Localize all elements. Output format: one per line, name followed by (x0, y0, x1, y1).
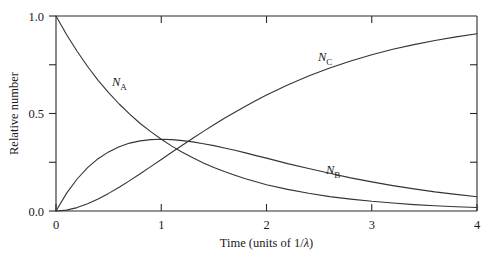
y-tick-label-1: 0.5 (28, 107, 44, 121)
top-spine-ticks (161, 16, 372, 23)
x-tick-label-0: 0 (53, 218, 59, 232)
y-axis-title: Relative number (7, 71, 21, 155)
right-spine-ticks (470, 65, 477, 163)
decay-chain-chart: 0.0 0.5 1.0 0 1 2 3 4 Time (units of 1/λ… (0, 0, 499, 262)
curve-label-nc: NC (317, 50, 332, 67)
x-axis-title-main: Time (units of 1/ (220, 236, 304, 250)
y-tick-label-2: 1.0 (28, 10, 44, 24)
figure-canvas: 0.0 0.5 1.0 0 1 2 3 4 Time (units of 1/λ… (0, 0, 499, 262)
y-tick-label-0: 0.0 (28, 205, 44, 219)
x-axis-title-close: ) (309, 236, 313, 250)
curve-label-na: NA (111, 75, 127, 92)
curve-label-nb: NB (325, 163, 340, 180)
curves (56, 16, 477, 211)
curve-label-nc-sub: C (326, 57, 332, 67)
curve-label-nb-sub: B (334, 170, 340, 180)
x-tick-label-2: 2 (263, 218, 269, 232)
y-tick-labels: 0.0 0.5 1.0 (28, 10, 44, 219)
y-axis-ticks (49, 16, 56, 211)
x-tick-label-1: 1 (158, 218, 164, 232)
plot-frame (56, 16, 477, 211)
x-axis-title: Time (units of 1/λ) (220, 236, 314, 250)
curve-label-na-sub: A (120, 82, 127, 92)
x-tick-label-4: 4 (474, 218, 481, 232)
curve-nb (56, 139, 477, 211)
x-tick-labels: 0 1 2 3 4 (53, 218, 481, 232)
x-tick-label-3: 3 (369, 218, 375, 232)
